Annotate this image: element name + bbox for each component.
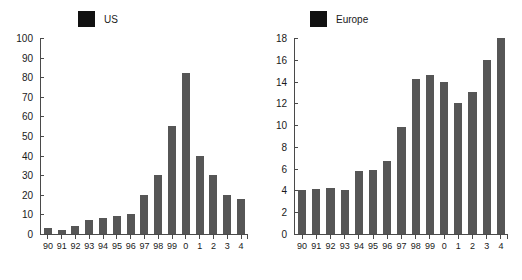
y-axis-tick: 14 [276,82,294,83]
x-axis-tick [465,235,479,239]
bar-cell [409,38,423,234]
x-axis-tick [69,235,83,239]
bar-cell [494,38,508,234]
y-axis-tick-mark [40,195,44,196]
bar-cell [69,38,83,234]
bar-cell [179,38,193,234]
y-axis-tick-label: 18 [276,33,294,44]
bar [209,175,217,234]
x-axis-end-tick [507,235,508,239]
y-axis-tick-mark [294,60,298,61]
x-axis-tick-label: 95 [110,241,124,251]
x-axis-tick-label: 92 [69,241,83,251]
y-axis-tick-mark [294,125,298,126]
bar-cell [207,38,221,234]
bar-cell [138,38,152,234]
x-axis-end-tick [247,235,248,239]
x-axis-tick-mark [344,235,345,239]
x-axis-tick-mark [144,235,145,239]
x-axis-tick-mark [103,235,104,239]
bar-cell [193,38,207,234]
legend-label-europe: Europe [336,14,368,25]
x-axis-tick-mark [486,235,487,239]
x-axis-tick-label: 98 [151,241,165,251]
bar [127,214,135,234]
x-axis-tick-label: 93 [82,241,96,251]
bar-cell [124,38,138,234]
y-axis-tick: 4 [281,190,294,191]
y-axis-tick: 16 [276,60,294,61]
x-axis-tick-mark [373,235,374,239]
y-axis-tick-mark [40,77,44,78]
x-axis-tick-label: 96 [124,241,138,251]
y-axis-tick-label: 4 [281,185,294,196]
x-axis-tick [138,235,152,239]
y-axis-tick: 20 [22,195,40,196]
bar [468,92,476,234]
bar [412,79,420,234]
bar [454,103,462,234]
x-axis-tick-mark [61,235,62,239]
x-axis-tick-label: 4 [494,241,508,251]
x-axis-tick-mark [316,235,317,239]
bar-cell [423,38,437,234]
bar-cell [338,38,352,234]
x-axis-tick-label: 2 [207,241,221,251]
bar-cell [437,38,451,234]
x-axis-tick-label: 1 [193,241,207,251]
bar-cell [110,38,124,234]
bar-cell [96,38,110,234]
bar-cell [151,38,165,234]
x-axis-tick-mark [158,235,159,239]
bar [113,216,121,234]
y-axis-tick: 0 [27,234,40,235]
y-axis-tick: 30 [22,175,40,176]
y-axis-tick-label: 100 [16,33,40,44]
x-axis-tick-mark [500,235,501,239]
x-axis-tick [352,235,366,239]
y-axis-tick-mark [40,156,44,157]
x-axis-tick-mark [172,235,173,239]
y-axis-tick-label: 50 [22,131,40,142]
x-axis-tick-mark [89,235,90,239]
x-axis-ticks-us [41,235,248,239]
bar [71,226,79,234]
bar [196,156,204,234]
y-axis-tick-label: 2 [281,207,294,218]
bar-cell [309,38,323,234]
bar [483,60,491,234]
x-axis-tick-label: 2 [465,241,479,251]
x-axis-tick [309,235,323,239]
bar [99,218,107,234]
x-axis-tick-mark [472,235,473,239]
bar-cell [165,38,179,234]
x-axis-tick-label: 3 [480,241,494,251]
x-axis-tick-label: 99 [423,241,437,251]
x-axis-tick [338,235,352,239]
x-axis-tick-mark [185,235,186,239]
bar [397,127,405,234]
bar [44,228,52,234]
bar [298,190,306,234]
y-axis-tick-label: 40 [22,150,40,161]
y-axis-tick-label: 0 [27,229,40,240]
y-axis-tick: 10 [22,214,40,215]
y-axis-tick-mark [40,97,44,98]
x-axis-labels-us: 9091929394959697989901234 [41,241,248,251]
x-axis-tick [110,235,124,239]
x-axis-tick [409,235,423,239]
bar [223,195,231,234]
x-axis-tick-label: 96 [380,241,394,251]
y-axis-tick-label: 80 [22,72,40,83]
bar [58,230,66,234]
x-axis-tick [55,235,69,239]
y-axis-tick: 100 [16,38,40,39]
y-axis-tick-mark [294,38,298,39]
y-axis-tick-label: 0 [281,229,294,240]
x-axis-tick-mark [116,235,117,239]
legend-swatch-icon [310,11,327,27]
y-axis-tick-label: 60 [22,111,40,122]
y-axis-tick-label: 10 [22,209,40,220]
y-axis-tick-mark [294,190,298,191]
bar-cell [82,38,96,234]
